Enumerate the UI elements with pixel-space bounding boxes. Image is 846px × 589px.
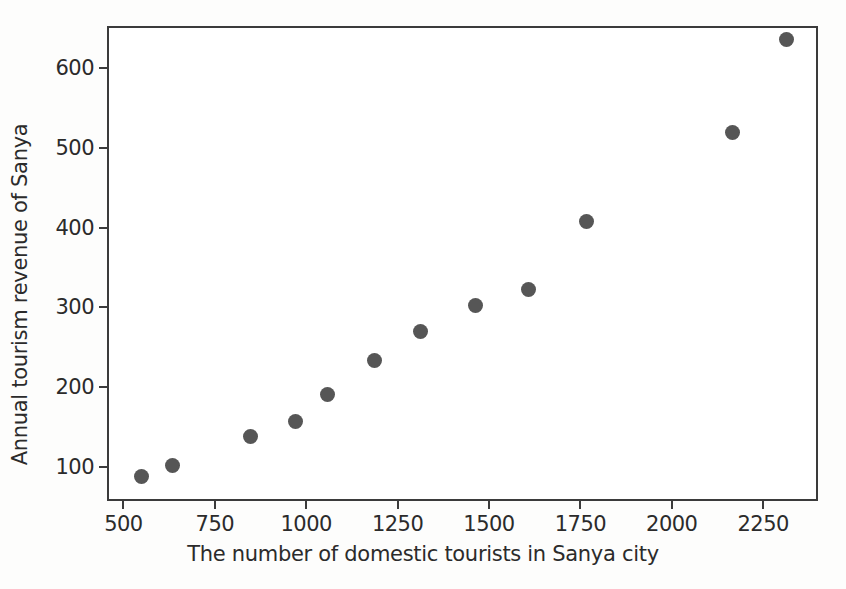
data-point [165, 458, 180, 473]
x-tick-mark [488, 501, 490, 509]
data-point [521, 282, 536, 297]
data-point [779, 32, 794, 47]
x-tick-label: 2250 [737, 512, 788, 536]
plot-area [107, 26, 818, 501]
y-tick-label: 100 [55, 455, 94, 479]
x-tick-mark [305, 501, 307, 509]
x-axis-label: The number of domestic tourists in Sanya… [0, 542, 846, 566]
x-tick-mark [671, 501, 673, 509]
y-tick-mark [99, 227, 107, 229]
y-tick-mark [99, 386, 107, 388]
y-tick-mark [99, 67, 107, 69]
x-tick-label: 2000 [646, 512, 697, 536]
scatter-chart-figure: 500750100012501500175020002250 100200300… [0, 0, 846, 589]
data-point [320, 387, 335, 402]
data-point [288, 414, 303, 429]
y-tick-mark [99, 466, 107, 468]
x-tick-label: 750 [196, 512, 235, 536]
x-tick-label: 1000 [280, 512, 331, 536]
data-point [134, 469, 149, 484]
y-tick-mark [99, 147, 107, 149]
x-tick-mark [762, 501, 764, 509]
y-tick-label: 300 [55, 295, 94, 319]
x-tick-mark [397, 501, 399, 509]
data-point [579, 214, 594, 229]
y-tick-label: 500 [55, 136, 94, 160]
data-point [243, 429, 258, 444]
x-tick-mark [214, 501, 216, 509]
x-tick-label: 1750 [555, 512, 606, 536]
x-tick-label: 1250 [372, 512, 423, 536]
data-point [725, 125, 740, 140]
data-point [468, 298, 483, 313]
data-point [367, 353, 382, 368]
x-tick-mark [122, 501, 124, 509]
x-tick-mark [579, 501, 581, 509]
x-tick-label: 1500 [463, 512, 514, 536]
x-tick-label: 500 [104, 512, 143, 536]
y-tick-label: 600 [55, 56, 94, 80]
y-tick-label: 200 [55, 375, 94, 399]
y-tick-mark [99, 306, 107, 308]
data-point [413, 324, 428, 339]
y-tick-label: 400 [55, 216, 94, 240]
y-axis-label: Annual tourism revenue of Sanya [0, 0, 40, 589]
